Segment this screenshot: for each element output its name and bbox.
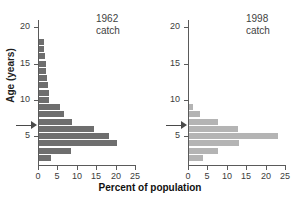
bar-age-16 <box>39 53 45 59</box>
bar-age-6 <box>189 126 238 132</box>
bar-age-2 <box>39 155 51 161</box>
y-tick-label-20: 20 <box>158 22 180 31</box>
bar-age-7 <box>189 119 218 125</box>
y-tick-15 <box>184 64 188 65</box>
panel-title-1998: 1998catch <box>246 13 270 37</box>
x-tick-label-5: 5 <box>197 171 217 181</box>
bar-age-4 <box>189 140 239 146</box>
x-axis-line-1962 <box>38 165 136 166</box>
bar-age-14 <box>39 68 46 74</box>
bar-age-9 <box>39 104 60 110</box>
bar-age-3 <box>189 148 218 154</box>
x-tick-label-25: 25 <box>275 171 295 181</box>
x-tick-20 <box>116 166 117 170</box>
x-tick-5 <box>207 166 208 170</box>
x-tick-label-5: 5 <box>47 171 67 181</box>
y-tick-label-5: 5 <box>158 131 180 140</box>
bar-age-15 <box>39 61 46 67</box>
bar-age-13 <box>39 75 47 81</box>
x-tick-10 <box>77 166 78 170</box>
x-tick-label-0: 0 <box>178 171 198 181</box>
y-tick-5 <box>34 136 38 137</box>
bar-age-12 <box>39 82 48 88</box>
y-tick-10 <box>184 100 188 101</box>
bar-age-7 <box>39 119 72 125</box>
bar-age-9 <box>189 104 193 110</box>
panel-title-1962: 1962catch <box>96 13 120 37</box>
x-tick-label-15: 15 <box>236 171 256 181</box>
bar-age-3 <box>39 148 71 154</box>
x-tick-20 <box>266 166 267 170</box>
x-tick-label-10: 10 <box>67 171 87 181</box>
x-tick-25 <box>285 166 286 170</box>
age-arrow-marker-1998 <box>166 121 188 130</box>
bar-age-10 <box>39 97 49 103</box>
x-tick-10 <box>227 166 228 170</box>
x-tick-label-20: 20 <box>106 171 126 181</box>
bar-age-2 <box>189 155 203 161</box>
x-tick-25 <box>135 166 136 170</box>
age-arrow-marker-1962 <box>16 121 38 130</box>
x-tick-label-10: 10 <box>217 171 237 181</box>
x-tick-label-15: 15 <box>86 171 106 181</box>
x-axis-label: Percent of population <box>0 182 300 193</box>
x-axis-line-1998 <box>188 165 286 166</box>
bar-age-6 <box>39 126 94 132</box>
bar-age-4 <box>39 140 117 146</box>
y-tick-label-20: 20 <box>8 22 30 31</box>
y-tick-label-15: 15 <box>158 59 180 68</box>
bar-age-11 <box>39 90 49 96</box>
y-tick-20 <box>184 27 188 28</box>
x-tick-label-20: 20 <box>256 171 276 181</box>
y-tick-5 <box>184 136 188 137</box>
bar-age-18 <box>39 39 44 45</box>
panel-1962-catch: Age (years) 1962catch 5101520 0510152025 <box>0 0 150 201</box>
arrow-head <box>31 121 37 129</box>
panel-title-1998-year: 1998 <box>246 13 268 24</box>
x-tick-label-25: 25 <box>125 171 145 181</box>
bar-age-17 <box>39 46 44 52</box>
panel-title-1998-word: catch <box>246 25 270 36</box>
bar-age-8 <box>189 111 200 117</box>
x-tick-0 <box>38 166 39 170</box>
bar-age-5 <box>39 133 109 139</box>
y-tick-10 <box>34 100 38 101</box>
y-tick-15 <box>34 64 38 65</box>
bar-age-8 <box>39 111 64 117</box>
x-tick-label-0: 0 <box>28 171 48 181</box>
panel-1998-catch: 1998catch 5101520 0510152025 <box>150 0 300 201</box>
x-tick-15 <box>96 166 97 170</box>
y-tick-20 <box>34 27 38 28</box>
panel-title-1962-year: 1962 <box>96 13 118 24</box>
y-tick-label-10: 10 <box>158 95 180 104</box>
arrow-head <box>181 121 187 129</box>
panel-title-1962-word: catch <box>96 25 120 36</box>
y-tick-label-15: 15 <box>8 59 30 68</box>
figure-histogram-pair: Age (years) 1962catch 5101520 0510152025… <box>0 0 300 201</box>
bar-age-5 <box>189 133 278 139</box>
y-tick-label-10: 10 <box>8 95 30 104</box>
x-tick-15 <box>246 166 247 170</box>
x-tick-0 <box>188 166 189 170</box>
y-tick-label-5: 5 <box>8 131 30 140</box>
x-tick-5 <box>57 166 58 170</box>
